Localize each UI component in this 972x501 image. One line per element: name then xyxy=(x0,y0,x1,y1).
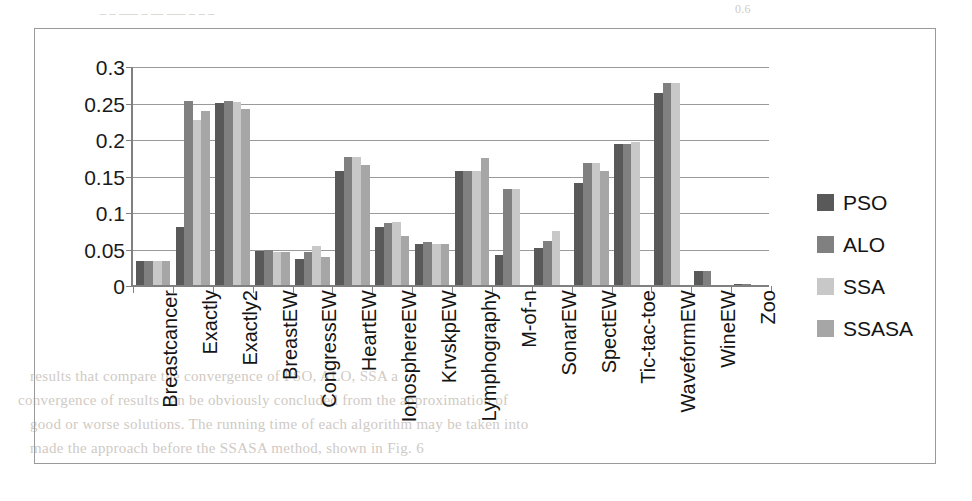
y-axis-tick-label: 0.05 xyxy=(84,239,125,260)
bar xyxy=(481,158,490,286)
bar xyxy=(441,244,450,286)
bar xyxy=(600,171,609,286)
y-axis-tickmark xyxy=(126,213,133,214)
bar xyxy=(423,242,432,286)
bar xyxy=(153,261,162,286)
x-axis-category-label: KrvskpEW xyxy=(439,290,459,383)
y-axis-tick-label: 0 xyxy=(113,276,125,297)
legend-label: PSO xyxy=(843,192,887,213)
bar xyxy=(401,236,410,286)
chart-legend: PSOALOSSASSASA xyxy=(817,181,927,349)
bar xyxy=(415,244,424,286)
legend-swatch-icon xyxy=(817,236,834,253)
legend-swatch-icon xyxy=(817,194,834,211)
bar-group xyxy=(731,67,771,286)
bar-group xyxy=(173,67,213,286)
bar xyxy=(543,241,552,286)
bar xyxy=(663,83,672,286)
bar-group xyxy=(372,67,412,286)
bar xyxy=(614,144,623,286)
x-axis-category-label: Zoo xyxy=(758,290,778,324)
bar xyxy=(281,252,290,286)
bar xyxy=(375,227,384,286)
bar xyxy=(144,261,153,286)
bar-group xyxy=(133,67,173,286)
y-axis-tickmark xyxy=(126,140,133,141)
bar xyxy=(312,246,321,286)
y-axis-tick-labels: 00.050.10.150.20.250.3 xyxy=(65,29,125,465)
x-axis-category-labels: BreastcancerExactlyExactly2BreastEWCongr… xyxy=(131,286,769,461)
bar-group xyxy=(492,67,532,286)
bar xyxy=(162,261,171,286)
x-axis-category-label: CongressEW xyxy=(319,290,339,408)
bar xyxy=(574,183,583,286)
bar-group xyxy=(213,67,253,286)
legend-label: SSA xyxy=(843,276,885,297)
bar xyxy=(255,251,264,286)
bar xyxy=(703,271,712,286)
legend-swatch-icon xyxy=(817,278,834,295)
y-axis-tick-label: 0.15 xyxy=(84,166,125,187)
y-axis-tick-label: 0.25 xyxy=(84,93,125,114)
bar xyxy=(384,223,393,286)
bar xyxy=(361,165,370,286)
legend-label: ALO xyxy=(843,234,885,255)
bar xyxy=(472,171,481,286)
bar-group xyxy=(651,67,691,286)
legend-swatch-icon xyxy=(817,320,834,337)
bar xyxy=(392,222,401,286)
bar xyxy=(344,157,353,286)
bar xyxy=(304,252,313,286)
bar xyxy=(592,163,601,286)
bar-group xyxy=(572,67,612,286)
x-axis-category-label: IonosphereEW xyxy=(399,290,419,422)
bar xyxy=(512,189,521,286)
page-bleed-top: _ _ ___ _ __ ___ _ _ _ xyxy=(100,2,215,17)
bar-group xyxy=(452,67,492,286)
page-bleed-top-right: 0.6 xyxy=(735,2,751,17)
bar-group xyxy=(612,67,652,286)
bar xyxy=(583,163,592,286)
bar-group xyxy=(293,67,333,286)
chart-plot-wrapper: 00.050.10.150.20.250.3 BreastcancerExact… xyxy=(35,29,937,465)
bar-group xyxy=(532,67,572,286)
x-axis-category-label: BreastEW xyxy=(280,290,300,380)
bar xyxy=(321,257,330,286)
bar xyxy=(654,93,663,286)
bar xyxy=(224,101,233,286)
bars-layer xyxy=(133,67,769,286)
x-axis-category-label: Tic-tac-toe xyxy=(638,290,658,384)
y-axis-tickmark xyxy=(126,67,133,68)
bar-group xyxy=(691,67,731,286)
y-axis-tick-label: 0.1 xyxy=(96,203,125,224)
bar xyxy=(455,171,464,286)
bar xyxy=(552,231,561,286)
y-axis-tickmark xyxy=(126,250,133,251)
bar-group xyxy=(253,67,293,286)
x-axis-category-label: SonarEW xyxy=(559,290,579,376)
bar xyxy=(295,259,304,286)
bar xyxy=(495,255,504,286)
bar xyxy=(201,111,210,286)
bar-group xyxy=(332,67,372,286)
x-axis-category-label: Exactly xyxy=(200,290,220,354)
y-axis-tick-label: 0.2 xyxy=(96,130,125,151)
x-axis-category-label: WineEW xyxy=(718,290,738,368)
x-axis-category-label: Lymphography xyxy=(479,290,499,422)
x-axis-category-label: M-of-n xyxy=(519,290,539,348)
bar xyxy=(671,83,680,286)
y-axis-tick-label: 0.3 xyxy=(96,57,125,78)
x-axis-category-label: Breastcancer xyxy=(160,290,180,408)
legend-item: SSA xyxy=(817,265,927,307)
plot-area xyxy=(131,67,769,286)
bar xyxy=(176,227,185,286)
x-axis-category-label: Exactly2 xyxy=(240,290,260,366)
bar xyxy=(241,109,250,286)
bar xyxy=(193,120,202,286)
bar xyxy=(694,271,703,286)
bar xyxy=(432,244,441,286)
bar xyxy=(264,250,273,287)
bar xyxy=(215,103,224,286)
y-axis-tickmark xyxy=(126,177,133,178)
bar xyxy=(631,142,640,286)
